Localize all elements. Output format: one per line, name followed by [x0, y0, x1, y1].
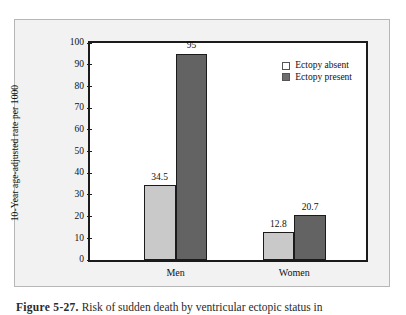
y-axis-tick-mark	[87, 238, 92, 239]
bar-men-absent	[144, 185, 176, 260]
bar-value-label: 20.7	[294, 203, 326, 213]
y-axis-tick-mark	[87, 86, 92, 87]
y-axis-tick-mark	[87, 173, 92, 174]
y-axis-tick-label: 60	[75, 125, 88, 135]
y-axis-tick-mark	[87, 108, 92, 109]
y-axis-title: 10-Year age-adjusted rate per 1000	[10, 38, 20, 268]
y-axis-tick-mark	[87, 194, 92, 195]
legend-item-label: Ectopy absent	[295, 61, 349, 71]
y-axis-tick-label: 50	[75, 147, 88, 157]
legend-swatch-icon	[282, 73, 290, 81]
y-axis-tick-label: 30	[75, 190, 88, 200]
y-axis-tick-label: 70	[75, 103, 88, 113]
y-axis-tick-label: 80	[75, 82, 88, 92]
y-axis-tick-label: 40	[75, 168, 88, 178]
figure-caption-text: Risk of sudden death by ventricular ecto…	[82, 301, 323, 313]
y-axis-tick-label: 90	[75, 60, 88, 70]
figure-container: 10-Year age-adjusted rate per 1000 01020…	[0, 0, 406, 315]
y-axis-tick-mark	[87, 64, 92, 65]
x-axis-label-women: Women	[253, 267, 336, 278]
x-axis-label-men: Men	[134, 267, 217, 278]
figure-number: Figure 5-27.	[16, 301, 79, 313]
y-axis-tick-label: 0	[79, 255, 87, 265]
legend-item-ectopy-present: Ectopy present	[282, 73, 352, 83]
bar-men-present	[176, 54, 208, 260]
plot-area: 10-Year age-adjusted rate per 1000 01020…	[90, 43, 366, 260]
bar-women-present	[294, 215, 326, 260]
bar-women-absent	[263, 232, 295, 260]
chart-legend: Ectopy absent Ectopy present	[282, 61, 352, 84]
plot-frame: 10-Year age-adjusted rate per 1000 01020…	[88, 41, 368, 262]
bar-value-label: 34.5	[144, 173, 176, 183]
bar-value-label: 95	[176, 41, 208, 51]
y-axis-tick-mark	[87, 260, 92, 261]
chart-panel: 10-Year age-adjusted rate per 1000 01020…	[14, 19, 390, 287]
legend-item-ectopy-absent: Ectopy absent	[282, 61, 352, 71]
y-axis-tick-mark	[87, 151, 92, 152]
legend-item-label: Ectopy present	[295, 73, 352, 83]
y-axis-tick-label: 100	[70, 38, 87, 48]
y-axis-tick-mark	[87, 216, 92, 217]
y-axis-tick-mark	[87, 43, 92, 44]
y-axis-tick-mark	[87, 129, 92, 130]
figure-caption: Figure 5-27. Risk of sudden death by ven…	[16, 300, 396, 315]
y-axis-tick-label: 20	[75, 212, 88, 222]
bar-value-label: 12.8	[263, 220, 295, 230]
legend-swatch-icon	[282, 62, 290, 70]
y-axis-tick-label: 10	[75, 234, 88, 244]
